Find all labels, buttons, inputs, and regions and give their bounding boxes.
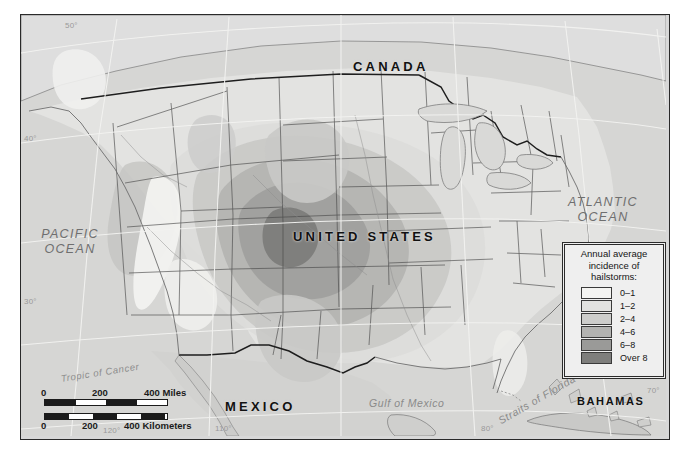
- legend-label-6-8: 6–8: [620, 340, 635, 350]
- scale-km-zero: 0: [41, 420, 46, 431]
- legend-row: 0–1: [581, 287, 661, 300]
- legend-entries: 0–1 1–2 2–4 4–6: [567, 287, 661, 365]
- legend-swatch-over-8: [581, 352, 612, 365]
- screenshot-root: CANADA UNITED STATES MEXICO BAHAMAS CUBA…: [0, 0, 678, 457]
- legend-label-over-8: Over 8: [620, 353, 648, 363]
- legend-title-line1: Annual average: [567, 248, 661, 260]
- legend-label-2-4: 2–4: [620, 314, 635, 324]
- scale-miles-zero: 0: [41, 387, 46, 398]
- legend-inner: Annual average incidence of hailstorms: …: [567, 247, 661, 374]
- scale-bar-miles: 0 200 400 Miles: [38, 387, 213, 408]
- legend-row: 6–8: [581, 339, 661, 352]
- legend-row: 1–2: [581, 300, 661, 313]
- legend-swatch-6-8: [581, 339, 612, 352]
- map-frame: CANADA UNITED STATES MEXICO BAHAMAS CUBA…: [20, 14, 670, 440]
- map-canvas: CANADA UNITED STATES MEXICO BAHAMAS CUBA…: [21, 15, 669, 439]
- legend-row: Over 8: [581, 352, 661, 365]
- scale-km-end: 400 Kilometers: [124, 420, 192, 431]
- scale-bar-kilometers: 0 200 400 Kilometers: [38, 413, 213, 434]
- scale-miles-labels: 0 200 400 Miles: [38, 387, 213, 398]
- scale-km-labels: 0 200 400 Kilometers: [38, 420, 213, 431]
- legend-label-4-6: 4–6: [620, 327, 635, 337]
- legend-swatch-4-6: [581, 326, 612, 339]
- legend-label-1-2: 1–2: [620, 301, 635, 311]
- legend-title-line3: hailstorms:: [567, 271, 661, 283]
- scale-bar: 0 200 400 Miles: [38, 387, 213, 434]
- scale-miles-end: 400 Miles: [144, 387, 186, 398]
- scale-km-bar: [44, 413, 168, 420]
- legend-title-line2: incidence of: [567, 260, 661, 272]
- legend-title: Annual average incidence of hailstorms:: [567, 247, 661, 283]
- legend-label-0-1: 0–1: [620, 288, 635, 298]
- legend-swatch-2-4: [581, 313, 612, 326]
- legend-swatch-1-2: [581, 300, 612, 313]
- scale-km-mid: 200: [82, 420, 98, 431]
- legend-row: 2–4: [581, 313, 661, 326]
- legend-box: Annual average incidence of hailstorms: …: [562, 242, 666, 379]
- scale-miles-mid: 200: [92, 387, 108, 398]
- legend-swatch-0-1: [581, 287, 612, 300]
- legend-row: 4–6: [581, 326, 661, 339]
- scale-miles-bar: [44, 399, 168, 406]
